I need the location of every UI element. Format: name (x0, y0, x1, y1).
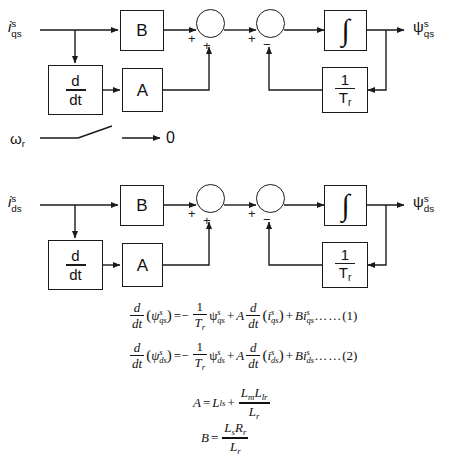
derivative-fraction: d dt (66, 73, 86, 106)
block-gain-b-ds[interactable]: B (120, 185, 164, 226)
block-gain-b-qs[interactable]: B (120, 10, 164, 51)
eq2-dots: …… (314, 348, 342, 364)
eq1-term2-fraction: d dt (246, 301, 260, 330)
block-gain-a-ds[interactable]: A (122, 243, 163, 287)
summing-junction-2-qs[interactable]: + − (256, 9, 285, 38)
block-derivative-ds[interactable]: d dt (48, 240, 103, 290)
sign-left-plus: + (188, 32, 196, 45)
block-label: A (137, 82, 148, 99)
eq2-term2-fraction: d dt (246, 341, 260, 370)
eq2-coeff-a: A (236, 348, 244, 364)
sign-bottom-plus: + (203, 39, 211, 52)
equation-1: d dt ( ψsqs ) =− 1 Tr ψsqs + A d dt ( is… (128, 300, 357, 332)
eq1-dots: …… (314, 308, 342, 324)
eq1-plus-2: + (284, 308, 295, 324)
block-integrator-ds[interactable]: ∫ (324, 185, 367, 226)
sign-left-plus: + (248, 32, 256, 45)
inverse-tr-fraction: 1 Tr (335, 72, 355, 108)
definition-a: A = Lls + LmLlr Lr (193, 386, 272, 420)
block-gain-a-qs[interactable]: A (122, 68, 163, 112)
eq2-coeff-b: B (295, 348, 303, 364)
figure-root: isqs B d dt A + + + − ∫ 1 Tr ψsqs ωr (0, 0, 457, 458)
def-a-fraction: LmLlr Lr (239, 386, 270, 420)
inverse-tr-fraction: 1 Tr (335, 247, 355, 283)
input-label-iqs: isqs (8, 18, 22, 38)
block-inverse-tr-ds[interactable]: 1 Tr (322, 242, 368, 288)
output-label-psi-qs: ψsqs (413, 18, 434, 38)
summing-junction-1-ds[interactable]: + + (196, 184, 225, 213)
eq2-number: (2) (342, 348, 357, 364)
sign-left-plus: + (248, 207, 256, 220)
eq2-equals-minus: =− (172, 348, 191, 364)
eq1-number: (1) (342, 308, 357, 324)
block-label: A (137, 257, 148, 274)
eq1-coeff-b: B (295, 308, 303, 324)
sign-left-plus: + (188, 207, 196, 220)
eq2-lhs-fraction: d dt (130, 341, 144, 370)
switch-output-label-zero: 0 (166, 130, 175, 146)
def-b-fraction: LsRr Lr (222, 421, 248, 455)
def-a-symbol: A (193, 395, 201, 411)
derivative-fraction: d dt (66, 248, 86, 281)
eq1-equals-minus: =− (172, 308, 191, 324)
equation-2: d dt ( ψsds ) =− 1 Tr ψsds + A d dt ( is… (128, 340, 357, 372)
output-label-psi-ds: ψsds (413, 193, 434, 213)
block-label: B (136, 197, 147, 214)
sign-bottom-minus: − (263, 213, 271, 226)
definition-b: B = LsRr Lr (201, 421, 250, 455)
switch-input-label-omega-r: ωr (10, 131, 25, 149)
summing-junction-2-ds[interactable]: + − (256, 184, 285, 213)
block-label: B (136, 22, 147, 39)
eq1-coeff-a: A (236, 308, 244, 324)
block-inverse-tr-qs[interactable]: 1 Tr (322, 67, 368, 113)
eq2-term1-fraction: 1 Tr (193, 340, 208, 372)
eq1-plus-1: + (225, 308, 236, 324)
eq1-term1-fraction: 1 Tr (193, 300, 208, 332)
sign-bottom-plus: + (203, 214, 211, 227)
eq1-lhs-fraction: d dt (130, 301, 144, 330)
block-derivative-qs[interactable]: d dt (48, 65, 103, 115)
input-label-ids: isds (8, 193, 22, 213)
integral-icon: ∫ (341, 190, 349, 220)
def-b-symbol: B (201, 430, 209, 446)
integral-icon: ∫ (341, 15, 349, 45)
block-integrator-qs[interactable]: ∫ (324, 10, 367, 51)
eq2-plus-2: + (284, 348, 295, 364)
sign-bottom-minus: − (263, 38, 271, 51)
eq2-plus-1: + (225, 348, 236, 364)
summing-junction-1-qs[interactable]: + + (196, 9, 225, 38)
